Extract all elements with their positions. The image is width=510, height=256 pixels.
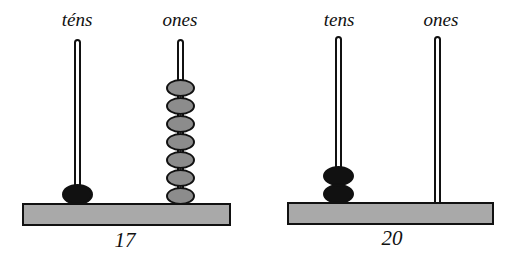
ones-label: ones [424, 9, 459, 31]
value-label: 20 [382, 226, 403, 251]
tens-label: tens [324, 9, 355, 31]
tens-bead [323, 184, 354, 204]
abacus-base [287, 202, 494, 225]
ones-rod [434, 36, 441, 204]
abacus-20: tens ones 20 [0, 0, 510, 256]
tens-bead [323, 166, 354, 186]
